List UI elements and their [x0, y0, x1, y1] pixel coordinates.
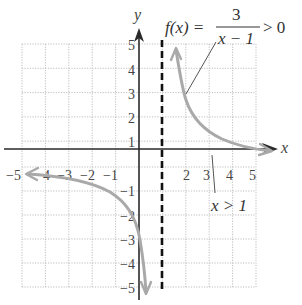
y-tick: 3: [128, 87, 135, 102]
y-tick-labels: 5 4 3 2 1 −1 −2 −3 −4 −5: [120, 38, 135, 296]
y-tick: 5: [128, 38, 135, 53]
annotation-numerator: 3: [232, 5, 241, 24]
y-tick: −5: [120, 281, 135, 296]
annotation-gt-zero: > 0: [263, 18, 285, 37]
x-tick: 5: [249, 168, 256, 183]
x-tick: −1: [103, 168, 118, 183]
x-axis-label: x: [280, 139, 288, 156]
y-tick: 1: [128, 135, 135, 150]
right-branch-curve: [171, 48, 272, 155]
annotation-f: f(x) =: [165, 18, 204, 37]
y-tick: −3: [120, 233, 135, 248]
y-tick: −1: [120, 184, 135, 199]
x-tick: −3: [57, 168, 72, 183]
y-tick: 4: [128, 63, 135, 78]
axes: x y: [4, 6, 288, 300]
y-tick: 2: [128, 111, 135, 126]
x-tick: 4: [226, 168, 233, 183]
x-tick: 2: [183, 168, 190, 183]
domain-annotation: x > 1: [210, 155, 247, 215]
domain-condition: x > 1: [210, 196, 247, 215]
annotation-leader-line: [186, 42, 216, 94]
function-graph: x y −5 −4 −3 −2 −1 2 3 4 5 5 4 3 2 1 −1 …: [0, 0, 302, 305]
x-tick: 3: [203, 168, 210, 183]
function-annotation: f(x) = 3 x − 1 > 0: [165, 5, 285, 94]
y-tick: −4: [120, 257, 135, 272]
annotation-denominator: x − 1: [217, 29, 254, 48]
domain-leader-line: [212, 155, 215, 193]
y-axis-label: y: [132, 6, 142, 24]
x-tick: −5: [6, 168, 21, 183]
